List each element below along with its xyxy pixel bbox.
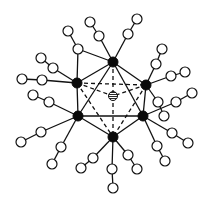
ligand-atom [36,53,46,63]
ligand-atom [73,44,83,54]
ligand-atom [16,137,26,147]
ligand-atom [183,138,193,148]
bond-solid [113,62,146,85]
ligand-atoms [16,14,197,193]
ligand-atom [48,63,58,73]
cluster-diagram [0,0,212,205]
core-atom-b [108,132,118,142]
core-atom-ru [141,80,151,90]
ligand-atom [47,159,57,169]
central-atom [109,92,118,101]
bond-solid [77,62,113,83]
central-atom-hatched [109,92,118,101]
ligand-atom [152,141,162,151]
ligand-atom [36,127,46,137]
core-atom-lu [72,78,82,88]
ligand-atom [28,90,38,100]
ligand-atom [167,128,177,138]
ligand-atom [63,26,73,36]
ligand-atom [94,31,104,41]
core-atom-t [108,57,118,67]
ligand-atom [123,150,133,160]
ligand-atom [180,67,190,77]
ligand-atom [132,14,142,24]
ligand-atom [76,163,86,173]
ligand-atom [157,44,167,54]
ligand-atom [17,74,27,84]
ligand-atom [166,71,176,81]
ligand-atom [123,29,133,39]
ligand-atom [132,164,142,174]
ligand-atom [153,97,163,107]
bond-solid [113,62,143,116]
bond-solid [78,116,113,137]
ligand-atom [160,156,170,166]
ligand-atom [108,183,118,193]
ligand-atom [56,142,66,152]
ligand-atom [44,97,54,107]
ligand-atom [187,88,197,98]
ligand-atom [37,75,47,85]
ligand-atom [159,111,169,121]
ligand-bond [41,116,78,132]
core-atom-ll [73,111,83,121]
bond-solid [78,62,113,116]
ligand-atom [85,17,95,27]
ligand-atom [107,164,117,174]
core-atom-rl [138,111,148,121]
ligand-atom [88,153,98,163]
bond-dashed [77,83,146,85]
ligand-atom [171,97,181,107]
ligand-atom [151,59,161,69]
